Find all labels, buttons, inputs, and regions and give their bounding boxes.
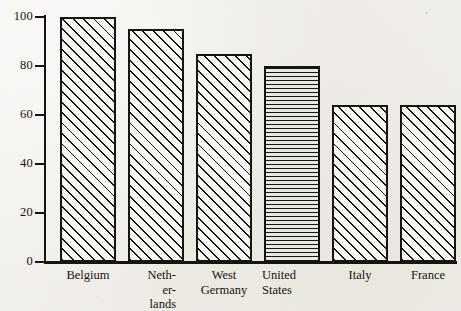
y-axis-tick <box>35 114 45 116</box>
y-axis-tick-label: 40 <box>3 156 33 171</box>
y-axis-tick <box>35 212 45 214</box>
y-axis-tick <box>35 261 45 263</box>
y-axis-tick-label: 20 <box>3 205 33 220</box>
y-axis-tick-labels: 100806040200 <box>0 0 33 311</box>
bar-belgium[interactable] <box>60 17 116 262</box>
y-axis-tick <box>35 16 45 18</box>
bar-italy[interactable] <box>332 105 388 262</box>
category-label-west-germany: West Germany <box>184 268 264 297</box>
y-axis-tick-label: 100 <box>3 9 33 24</box>
y-axis-tick-label: 80 <box>3 58 33 73</box>
bar-france[interactable] <box>400 105 456 262</box>
bar-chart: 100806040200 BelgiumNeth- er- landsWest … <box>0 0 461 311</box>
category-label-netherlands: Neth- er- lands <box>110 268 176 311</box>
y-axis-tick-label: 0 <box>3 254 33 269</box>
bar-united-states[interactable] <box>264 66 320 262</box>
y-axis-tick <box>35 65 45 67</box>
y-axis-tick <box>35 163 45 165</box>
y-axis-line <box>44 15 46 264</box>
bar-west-germany[interactable] <box>196 54 252 262</box>
y-axis-tick-label: 60 <box>3 107 33 122</box>
bar-netherlands[interactable] <box>128 29 184 262</box>
category-label-france: France <box>386 268 461 283</box>
